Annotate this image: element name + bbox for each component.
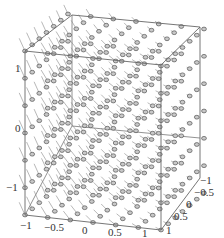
arrow-head-icon bbox=[173, 161, 178, 165]
arrow-head-icon bbox=[156, 159, 161, 163]
x-tick-label: −1 bbox=[20, 220, 32, 231]
arrow-head-icon bbox=[165, 201, 170, 205]
arrow-head-icon bbox=[194, 143, 199, 147]
arrow-head-icon bbox=[75, 212, 80, 216]
arrow-head-icon bbox=[156, 131, 161, 135]
arrow-head-icon bbox=[143, 83, 148, 87]
arrow-head-icon bbox=[74, 164, 79, 168]
arrow-head-icon bbox=[75, 130, 80, 134]
arrow-head-icon bbox=[156, 77, 161, 81]
arrow-head-icon bbox=[67, 33, 72, 37]
arrow-head-icon bbox=[91, 166, 96, 170]
arrow-head-icon bbox=[44, 31, 49, 35]
arrow-head-icon bbox=[126, 135, 131, 139]
arrow-head-icon bbox=[136, 144, 141, 148]
arrow-head-icon bbox=[128, 183, 133, 187]
arrow-head-icon bbox=[142, 34, 147, 38]
arrow-head-icon bbox=[172, 85, 177, 89]
arrow-head-icon bbox=[60, 203, 65, 207]
arrow-head-icon bbox=[112, 38, 117, 42]
arrow-head-icon bbox=[120, 108, 125, 112]
arrow-head-icon bbox=[128, 129, 133, 133]
arrow-head-icon bbox=[37, 201, 42, 205]
arrow-head-icon bbox=[149, 83, 154, 87]
arrow-head-icon bbox=[66, 149, 71, 153]
arrow-head-icon bbox=[134, 102, 139, 106]
arrow-head-icon bbox=[179, 107, 184, 111]
arrow-head-icon bbox=[51, 134, 56, 138]
arrow-head-icon bbox=[120, 217, 125, 221]
arrow-head-icon bbox=[105, 208, 110, 212]
arrow-head-icon bbox=[58, 46, 63, 50]
arrow-head-icon bbox=[51, 106, 56, 110]
arrow-head-icon bbox=[105, 154, 110, 158]
arrow-head-icon bbox=[156, 49, 161, 53]
arrow-head-icon bbox=[82, 96, 87, 100]
arrow-head-icon bbox=[166, 195, 171, 199]
arrow-head-icon bbox=[173, 188, 178, 192]
arrow-head-icon bbox=[89, 90, 94, 94]
arrow-head-icon bbox=[165, 64, 170, 68]
arrow-head-icon bbox=[150, 49, 155, 53]
arrow-head-icon bbox=[105, 44, 110, 48]
arrow-head-icon bbox=[66, 176, 71, 180]
arrow-head-icon bbox=[105, 126, 110, 130]
arrow-head-icon bbox=[166, 140, 171, 144]
arrow-head-icon bbox=[119, 87, 124, 91]
arrow-head-icon bbox=[157, 43, 162, 47]
arrow-head-icon bbox=[179, 189, 184, 193]
y-tick-label: −0.5 bbox=[194, 187, 214, 198]
arrow-head-icon bbox=[187, 149, 192, 153]
arrow-head-icon bbox=[165, 174, 170, 178]
arrow-head-icon bbox=[135, 68, 140, 72]
arrow-head-icon bbox=[97, 193, 102, 197]
arrow-head-icon bbox=[60, 121, 65, 125]
arrow-head-icon bbox=[98, 105, 103, 109]
arrow-head-icon bbox=[143, 55, 148, 59]
arrow-head-icon bbox=[143, 165, 148, 169]
arrow-head-icon bbox=[142, 171, 147, 175]
y-tick-label: 1 bbox=[166, 225, 172, 236]
arrow-head-icon bbox=[126, 80, 131, 84]
arrow-head-icon bbox=[143, 137, 148, 141]
arrow-head-icon bbox=[166, 167, 171, 171]
arrow-head-icon bbox=[142, 144, 147, 148]
arrow-head-icon bbox=[172, 140, 177, 144]
arrow-head-icon bbox=[75, 103, 80, 107]
arrow-head-icon bbox=[30, 70, 35, 74]
arrow-head-icon bbox=[134, 156, 139, 160]
arrow-head-icon bbox=[173, 134, 178, 138]
arrow-head-icon bbox=[143, 219, 148, 223]
arrow-head-icon bbox=[88, 179, 93, 183]
y-tick-label: −1 bbox=[200, 175, 212, 186]
y-tick-label: 0.5 bbox=[174, 211, 188, 222]
arrow-head-icon bbox=[142, 198, 147, 202]
arrow-head-icon bbox=[30, 125, 35, 129]
arrow-head-icon bbox=[75, 185, 80, 189]
arrow-head-icon bbox=[166, 113, 171, 117]
arrow-head-icon bbox=[104, 23, 109, 27]
arrow-head-icon bbox=[30, 152, 35, 156]
arrow-head-icon bbox=[67, 170, 72, 174]
arrow-head-icon bbox=[202, 54, 207, 58]
arrow-head-icon bbox=[89, 200, 94, 204]
arrow-head-icon bbox=[119, 169, 124, 173]
arrow-head-icon bbox=[128, 101, 133, 105]
arrow-head-icon bbox=[134, 184, 139, 188]
arrow-head-icon bbox=[128, 74, 133, 78]
arrow-head-icon bbox=[136, 89, 141, 93]
arrow-head-icon bbox=[67, 197, 72, 201]
arrow-head-icon bbox=[75, 48, 80, 52]
arrow-head-icon bbox=[187, 121, 192, 125]
arrow-head-icon bbox=[45, 188, 50, 192]
arrow-head-icon bbox=[180, 100, 185, 104]
arrow-head-icon bbox=[91, 139, 96, 143]
arrow-head-icon bbox=[89, 145, 94, 149]
arrow-head-icon bbox=[88, 42, 93, 46]
arrow-head-icon bbox=[98, 132, 103, 136]
arrow-head-icon bbox=[111, 72, 116, 76]
arrow-head-icon bbox=[113, 168, 118, 172]
arrow-head-icon bbox=[119, 196, 124, 200]
arrow-head-icon bbox=[149, 56, 154, 60]
arrow-head-icon bbox=[202, 109, 207, 113]
